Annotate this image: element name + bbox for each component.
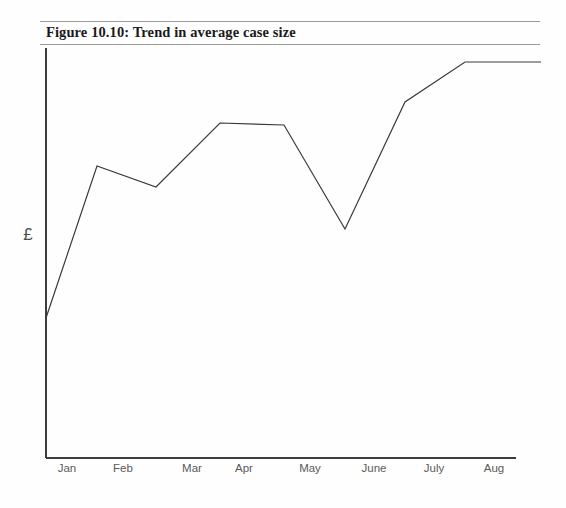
- data-series-line: [46, 62, 541, 318]
- x-tick-label-aug: Aug: [471, 462, 517, 475]
- x-tick-label-july: July: [411, 462, 457, 475]
- chart-plot-area: £ JanFebMarAprMayJuneJulyAug: [0, 0, 566, 508]
- x-tick-label-jan: Jan: [44, 462, 90, 475]
- y-axis-label: £: [18, 226, 38, 243]
- x-tick-label-june: June: [351, 462, 397, 475]
- x-tick-label-apr: Apr: [221, 462, 267, 475]
- line-chart-svg: [0, 0, 566, 508]
- x-tick-label-may: May: [287, 462, 333, 475]
- x-tick-label-feb: Feb: [100, 462, 146, 475]
- x-tick-label-mar: Mar: [169, 462, 215, 475]
- figure-root: Figure 10.10: Trend in average case size…: [0, 0, 566, 508]
